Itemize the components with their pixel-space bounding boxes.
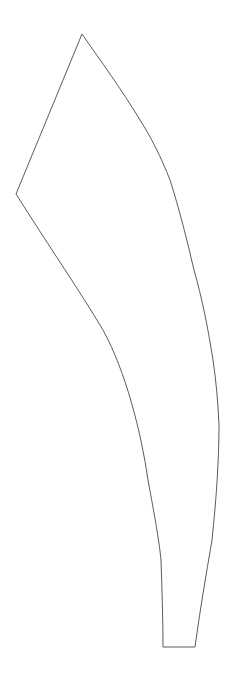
shape-outline-svg <box>0 0 236 694</box>
drawing-canvas <box>0 0 236 694</box>
